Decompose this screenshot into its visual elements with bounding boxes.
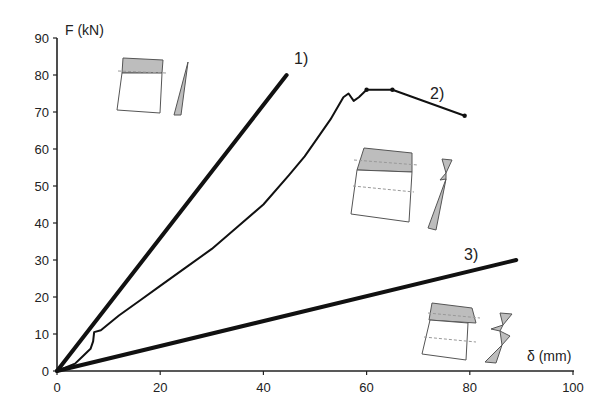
series-1-label: 1) [294,50,308,67]
x-tick-label: 20 [153,380,167,395]
x-tick-label: 40 [256,380,270,395]
y-tick-label: 70 [35,105,49,120]
x-tick-label: 60 [359,380,373,395]
x-tick-label: 100 [562,380,584,395]
y-tick-label: 80 [35,68,49,83]
x-tick-label: 0 [53,380,60,395]
x-axis-title: δ (mm) [527,348,571,364]
y-tick-label: 0 [42,364,49,379]
data-point-marker [364,88,368,92]
y-tick-label: 40 [35,216,49,231]
y-tick-label: 20 [35,290,49,305]
series-3-label: 3) [464,246,478,263]
y-tick-label: 90 [35,31,49,46]
y-axis-title: F (kN) [65,22,104,38]
series-2-label: 2) [430,85,444,102]
y-tick-label: 30 [35,253,49,268]
y-tick-label: 50 [35,179,49,194]
data-point-marker [390,88,394,92]
data-point-marker [462,114,466,118]
y-tick-label: 60 [35,142,49,157]
force-displacement-chart: 0102030405060708090 020406080100 F (kN) … [0,0,612,417]
x-tick-label: 80 [463,380,477,395]
y-tick-label: 10 [35,327,49,342]
